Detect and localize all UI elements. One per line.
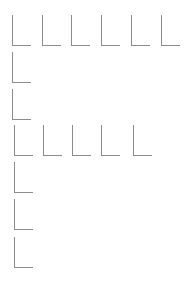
corner-mark-icon (101, 15, 120, 46)
corner-mark-icon (131, 15, 150, 46)
corner-mark-icon (101, 125, 120, 156)
corner-mark-icon (14, 162, 33, 193)
corner-mark-icon (43, 125, 62, 156)
corner-mark-icon (133, 125, 152, 156)
corner-mark-icon (14, 199, 33, 230)
corner-mark-icon (12, 52, 31, 83)
corner-mark-icon (161, 15, 180, 46)
drawing-canvas (0, 0, 186, 281)
corner-mark-icon (71, 15, 90, 46)
corner-mark-icon (42, 15, 61, 46)
corner-mark-icon (14, 237, 33, 268)
corner-mark-icon (72, 125, 91, 156)
corner-mark-icon (14, 125, 33, 156)
corner-mark-icon (12, 15, 31, 46)
corner-mark-icon (12, 89, 31, 120)
